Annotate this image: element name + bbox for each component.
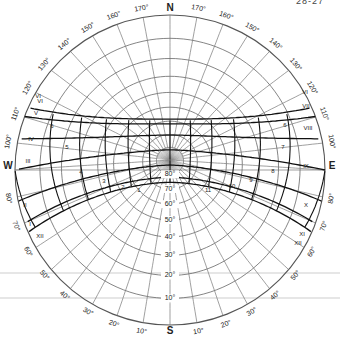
azimuth-label: 170° — [191, 3, 207, 12]
azimuth-label: 30° — [82, 306, 95, 317]
azimuth-label: 40° — [269, 289, 282, 301]
month-label-west: II — [23, 202, 27, 208]
azimuth-label: 160° — [106, 9, 122, 21]
azimuth-label: 100° — [3, 133, 12, 149]
altitude-label: 70° — [165, 185, 176, 192]
azimuth-label: 50° — [39, 269, 51, 282]
month-label-east: VIII — [303, 125, 312, 131]
azimuth-label: 110° — [319, 106, 330, 122]
sun-path-chart: NSWE170°170°160°160°150°150°140°140°130°… — [0, 0, 340, 337]
hour-label-afternoon: 11 — [205, 187, 212, 193]
azimuth-label: 20° — [108, 318, 121, 328]
month-label-east: XI — [299, 231, 305, 237]
altitude-label: 50° — [165, 216, 176, 223]
azimuth-label: 10° — [136, 326, 148, 335]
azimuth-label: 130° — [37, 56, 52, 72]
altitude-label: 10° — [165, 294, 176, 301]
azimuth-label: 60° — [23, 245, 34, 258]
hour-label-morning: 4 — [79, 169, 83, 175]
azimuth-label: 120° — [306, 80, 319, 96]
altitude-label: 60° — [165, 200, 176, 207]
azimuth-spoke-80 — [183, 143, 322, 158]
altitude-label: 80° — [165, 170, 176, 177]
azimuth-label: 170° — [134, 3, 150, 12]
cardinal-n: N — [166, 2, 173, 13]
azimuth-label: 40° — [59, 289, 72, 301]
azimuth-label: 30° — [245, 306, 258, 317]
azimuth-label: 140° — [56, 36, 72, 51]
hour-line-13 — [189, 120, 191, 183]
azimuth-label: 60° — [306, 245, 317, 258]
month-label-west: IV — [28, 136, 34, 142]
azimuth-label: 10° — [193, 326, 205, 335]
azimuth-spoke-140 — [179, 171, 270, 288]
azimuth-spoke-220 — [70, 171, 161, 288]
azimuth-label: 70° — [318, 220, 328, 233]
azimuth-spoke-280 — [17, 143, 156, 158]
azimuth-label: 70° — [11, 220, 21, 233]
hour-line-15 — [229, 119, 235, 192]
month-label-east: XII — [294, 240, 302, 246]
hour-line-11 — [149, 120, 151, 183]
hour-label-afternoon: 8 — [271, 168, 275, 174]
azimuth-label: 20° — [220, 318, 233, 328]
azimuth-label: 100° — [327, 134, 336, 150]
month-label-east: VII — [302, 103, 310, 109]
hour-label-morning: 3 — [102, 178, 106, 184]
altitude-label: 40° — [165, 233, 176, 240]
azimuth-label: 80° — [326, 192, 335, 204]
cardinal-w: W — [3, 160, 13, 171]
azimuth-label: 120° — [21, 79, 34, 95]
hour-label-afternoon: 6 — [283, 122, 287, 128]
azimuth-label: 150° — [244, 21, 260, 34]
hour-label-afternoon: 7 — [281, 144, 285, 150]
month-label-west: V — [34, 110, 38, 116]
azimuth-label: 130° — [289, 56, 304, 72]
azimuth-label: 160° — [218, 10, 234, 22]
month-label-east: IX — [303, 163, 309, 169]
month-label-west: III — [25, 158, 30, 164]
cardinal-s: S — [167, 325, 174, 336]
azimuth-label: 110° — [10, 106, 21, 122]
altitude-label: 20° — [165, 271, 176, 278]
month-label-east: VI — [302, 89, 308, 95]
hour-label-afternoon: 10 — [229, 183, 236, 189]
azimuth-label: 140° — [268, 37, 284, 52]
hour-line-9 — [105, 119, 111, 192]
azimuth-spoke-110 — [183, 166, 316, 224]
month-label-west: I — [29, 221, 31, 227]
month-label-east: X — [304, 202, 308, 208]
month-label-west: XII — [36, 233, 44, 239]
month-label-west: VI — [35, 93, 41, 99]
altitude-label: 30° — [165, 251, 176, 258]
azimuth-label: 50° — [289, 269, 301, 282]
cardinal-e: E — [329, 160, 336, 171]
azimuth-label: 80° — [5, 193, 14, 205]
azimuth-spoke-250 — [24, 166, 157, 224]
azimuth-label: 150° — [80, 21, 96, 34]
